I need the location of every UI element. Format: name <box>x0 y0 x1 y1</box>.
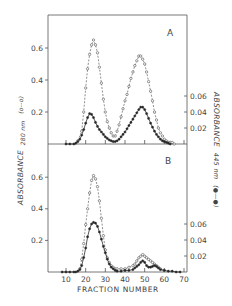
panel-b-series <box>61 174 181 273</box>
data-point-filled-circle <box>144 261 146 263</box>
data-point-open-circle <box>157 127 159 129</box>
data-point-filled-circle <box>100 131 102 133</box>
data-point-filled-circle <box>104 136 106 138</box>
right-tick-label: 0.04 <box>190 108 207 117</box>
data-point-open-circle <box>90 179 92 181</box>
data-point-filled-circle <box>120 136 122 138</box>
data-point-filled-circle <box>124 131 126 133</box>
x-tick-label: 50 <box>140 275 150 284</box>
data-point-filled-circle <box>81 265 83 267</box>
data-point-open-circle <box>145 71 147 73</box>
data-point-open-circle <box>142 58 144 60</box>
data-point-filled-circle <box>69 271 71 273</box>
data-point-open-circle <box>102 98 104 100</box>
data-point-open-circle <box>114 135 116 137</box>
data-point-open-circle <box>85 223 87 225</box>
data-point-filled-circle <box>106 258 108 260</box>
panel-a-label: A <box>167 28 174 38</box>
data-point-open-circle <box>85 87 87 89</box>
data-point-filled-circle <box>98 129 100 131</box>
data-point-filled-circle <box>140 261 142 263</box>
panel-b: B 0.20.40.6 0.020.040.06 <box>31 144 207 273</box>
data-point-filled-circle <box>155 133 157 135</box>
y-right-title: ABSORBANCE 445 nm (●—●) <box>212 91 221 208</box>
y-right-title-sub: 445 nm <box>212 153 220 180</box>
data-point-filled-circle <box>108 263 110 265</box>
data-point-filled-circle <box>157 136 159 138</box>
data-point-open-circle <box>126 93 128 95</box>
data-point-filled-circle <box>94 121 96 123</box>
data-point-open-circle <box>86 208 88 210</box>
data-point-open-circle <box>110 132 112 134</box>
data-point-filled-circle <box>96 125 98 127</box>
data-point-open-circle <box>161 135 163 137</box>
data-point-open-circle <box>147 80 149 82</box>
data-point-filled-circle <box>75 142 77 144</box>
data-point-open-circle <box>92 39 94 41</box>
y-right-title-group: ABSORBANCE 445 nm (●—●) <box>212 91 221 208</box>
data-point-filled-circle <box>138 264 140 266</box>
right-tick-label: 0.06 <box>190 92 207 101</box>
left-tick-label: 0.6 <box>31 173 43 182</box>
data-point-filled-circle <box>128 269 130 271</box>
data-point-open-circle <box>98 66 100 68</box>
data-point-open-circle <box>83 242 85 244</box>
data-point-filled-circle <box>77 270 79 272</box>
data-point-filled-circle <box>87 236 89 238</box>
chromatography-figure: A 0.20.40.6 0.020.040.06 B 0.20.40.6 0.0… <box>0 0 232 306</box>
data-point-filled-circle <box>92 117 94 119</box>
data-point-open-circle <box>88 53 90 55</box>
data-point-filled-circle <box>134 267 136 269</box>
data-point-filled-circle <box>81 134 83 136</box>
data-point-open-circle <box>100 82 102 84</box>
data-point-filled-circle <box>142 260 144 262</box>
data-point-filled-circle <box>155 265 157 267</box>
y-left-legend-marker: (o--o) <box>17 96 24 114</box>
data-point-filled-circle <box>85 122 87 124</box>
x-tick-label: 20 <box>81 275 91 284</box>
panel-a-right-ticks: 0.020.040.06 <box>184 92 207 133</box>
data-point-filled-circle <box>91 223 93 225</box>
data-point-filled-circle <box>159 269 161 271</box>
data-point-open-circle <box>173 143 175 145</box>
data-point-open-circle <box>118 124 120 126</box>
left-tick-label: 0.4 <box>31 204 43 213</box>
data-point-open-circle <box>94 178 96 180</box>
data-point-filled-circle <box>142 106 144 108</box>
panel-b-label: B <box>165 156 171 166</box>
data-point-filled-circle <box>144 109 146 111</box>
data-point-open-circle <box>104 111 106 113</box>
data-point-filled-circle <box>163 269 165 271</box>
data-point-filled-circle <box>87 117 89 119</box>
data-point-open-circle <box>140 55 142 57</box>
data-point-filled-circle <box>85 247 87 249</box>
data-point-filled-circle <box>136 112 138 114</box>
data-point-filled-circle <box>153 130 155 132</box>
data-point-filled-circle <box>148 117 150 119</box>
x-tick-label: 40 <box>120 275 130 284</box>
x-tick-label: 10 <box>61 275 71 284</box>
panel-a-left-ticks: 0.20.40.6 <box>31 44 48 117</box>
data-point-filled-circle <box>89 228 91 230</box>
series-445nm-line <box>62 222 180 272</box>
data-point-filled-circle <box>136 265 138 267</box>
data-point-filled-circle <box>157 267 159 269</box>
data-point-filled-circle <box>61 271 63 273</box>
data-point-filled-circle <box>83 129 85 131</box>
data-point-open-circle <box>130 77 132 79</box>
data-point-open-circle <box>153 111 155 113</box>
data-point-filled-circle <box>159 138 161 140</box>
data-point-filled-circle <box>175 271 177 273</box>
data-point-filled-circle <box>98 231 100 233</box>
data-point-filled-circle <box>169 143 171 145</box>
x-tick-label: 30 <box>101 275 111 284</box>
data-point-filled-circle <box>130 121 132 123</box>
data-point-open-circle <box>144 63 146 65</box>
data-point-filled-circle <box>122 133 124 135</box>
data-point-open-circle <box>134 64 136 66</box>
panel-b-right-ticks: 0.020.040.06 <box>184 220 207 261</box>
data-point-filled-circle <box>69 143 71 145</box>
left-tick-label: 0.2 <box>31 108 43 117</box>
x-tick-label: 60 <box>160 275 170 284</box>
y-right-legend-marker: (●—●) <box>213 185 220 208</box>
